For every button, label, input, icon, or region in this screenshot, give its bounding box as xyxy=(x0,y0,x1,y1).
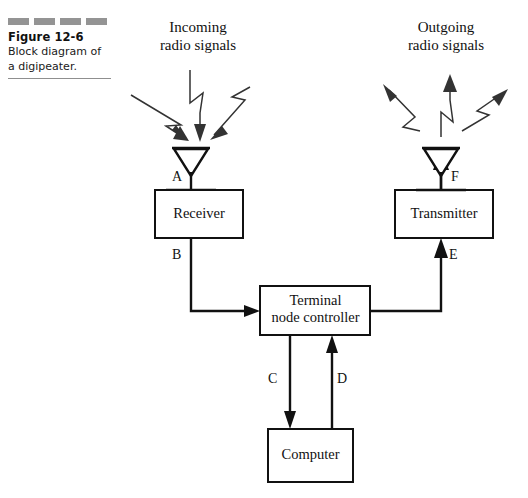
point-label-a: A xyxy=(172,169,182,185)
point-label-d: D xyxy=(337,371,347,387)
point-label-c: C xyxy=(268,371,277,387)
incoming-bolt-left xyxy=(131,95,189,141)
terminal-node-controller-label: Terminal node controller xyxy=(261,292,370,326)
computer-label: Computer xyxy=(268,446,353,463)
transmitter-label: Transmitter xyxy=(395,205,493,222)
wire-c-tnc-to-computer xyxy=(284,335,296,429)
point-label-e: E xyxy=(449,247,458,263)
outgoing-bolt-center xyxy=(441,74,457,137)
receiver-label: Receiver xyxy=(155,205,243,222)
point-label-f: F xyxy=(451,169,459,185)
outgoing-bolt-left xyxy=(383,84,420,131)
tnc-label-line2: node controller xyxy=(261,309,370,326)
incoming-bolt-center xyxy=(190,70,206,142)
incoming-bolt-right xyxy=(210,87,250,140)
wire-b-receiver-to-tnc xyxy=(191,238,260,317)
point-label-b: B xyxy=(172,247,181,263)
wire-e-tnc-to-transmitter xyxy=(370,238,448,311)
tnc-label-line1: Terminal xyxy=(261,292,370,309)
outgoing-bolt-right xyxy=(462,89,508,131)
